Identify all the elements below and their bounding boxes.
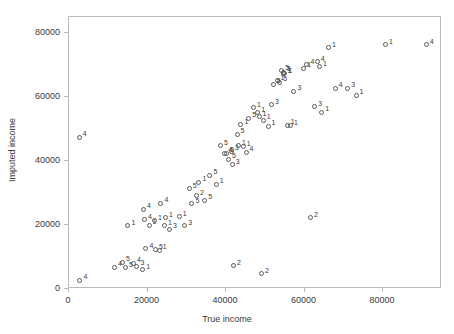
data-point-label: 1 [294, 119, 298, 126]
data-point-label: 1 [291, 118, 295, 125]
data-point-label: 4 [83, 273, 87, 280]
data-point [261, 118, 266, 123]
data-point [424, 42, 429, 47]
data-point [241, 144, 246, 149]
data-point-label: 4 [228, 146, 232, 153]
data-point-label: 5 [252, 111, 256, 118]
data-point-label: 1 [267, 113, 271, 120]
plot-area: 4445514314441151411313552155154553325111… [68, 16, 441, 288]
y-axis-tick [64, 160, 68, 161]
data-point [157, 248, 162, 253]
data-point [141, 207, 146, 212]
y-axis-tick-label: 80000 [14, 28, 60, 37]
data-point [153, 247, 158, 252]
data-point-label: 5 [129, 261, 133, 268]
data-point-label: 1 [325, 105, 329, 112]
x-axis-tick-label: 0 [38, 296, 98, 305]
data-point [158, 201, 163, 206]
data-point [383, 42, 388, 47]
data-point-label: 5 [193, 182, 197, 189]
data-point [134, 264, 139, 269]
y-axis-tick-label: 40000 [14, 156, 60, 165]
data-point [147, 223, 152, 228]
data-point [271, 82, 276, 87]
data-point-label: 4 [147, 202, 151, 209]
data-point [202, 198, 207, 203]
data-point [354, 93, 359, 98]
x-axis-tick [382, 288, 383, 292]
data-point [333, 86, 338, 91]
data-point [226, 157, 231, 162]
data-point [291, 89, 296, 94]
data-point-label: 4 [149, 242, 153, 249]
x-axis-title: True income [0, 314, 454, 324]
data-point [131, 261, 136, 266]
data-point-label: 1 [288, 67, 292, 74]
data-point [120, 260, 125, 265]
data-point [259, 271, 264, 276]
data-point-label: 5 [287, 65, 291, 72]
data-point-label: 1 [360, 88, 364, 95]
data-point-label: 4 [430, 38, 434, 45]
data-point-label: 1 [332, 41, 336, 48]
y-axis-tick-label: 0 [14, 284, 60, 293]
data-point [77, 135, 82, 140]
data-point-label: 5 [195, 197, 199, 204]
data-point-label: 4 [83, 130, 87, 137]
x-axis-tick [68, 288, 69, 292]
data-point [319, 110, 324, 115]
data-point-label: 3 [140, 259, 144, 266]
y-axis-tick [64, 96, 68, 97]
data-point [275, 78, 280, 83]
data-point [281, 70, 286, 75]
data-point-label: 3 [318, 100, 322, 107]
data-point [196, 180, 201, 185]
x-axis-tick-label: 60000 [274, 296, 334, 305]
data-point-label: 1 [307, 61, 311, 68]
data-point [304, 62, 309, 67]
data-point-label: 5 [126, 255, 130, 262]
data-point [308, 215, 313, 220]
data-point [123, 265, 128, 270]
data-point-label: 1 [220, 177, 224, 184]
data-point-label: 1 [272, 119, 276, 126]
data-point [246, 116, 251, 121]
data-point-label: 1 [247, 140, 251, 147]
y-axis-tick [64, 32, 68, 33]
data-point-label: 1 [263, 110, 267, 117]
data-point-label: 5 [241, 127, 245, 134]
data-point-label: 5 [224, 139, 228, 146]
data-point [112, 265, 117, 270]
x-axis-tick-label: 20000 [117, 296, 177, 305]
data-point [189, 201, 194, 206]
x-axis-tick-label: 80000 [352, 296, 412, 305]
data-point-layer: 4445514314441151411313552155154553325111… [69, 17, 440, 287]
data-point-label: 1 [168, 219, 172, 226]
data-point-label: 1 [163, 243, 167, 250]
data-point-label: 3 [275, 98, 279, 105]
data-point [77, 278, 82, 283]
data-point-label: 5 [159, 243, 163, 250]
data-point-label: 5 [232, 152, 236, 159]
data-point [236, 143, 241, 148]
data-point [235, 132, 240, 137]
data-point-label: 3 [173, 222, 177, 229]
scatter-plot-figure: 4445514314441151411313552155154553325111… [0, 0, 454, 334]
data-point-label: 1 [281, 74, 285, 81]
data-point [214, 182, 219, 187]
data-point-label: 1 [323, 60, 327, 67]
data-point-label: 1 [169, 211, 173, 218]
data-point-label: 4 [164, 196, 168, 203]
x-axis-tick [304, 288, 305, 292]
data-point [285, 123, 290, 128]
data-point-label: 1 [131, 219, 135, 226]
data-point-label: 3 [351, 81, 355, 88]
data-point-label: 5 [213, 168, 217, 175]
data-point [288, 123, 293, 128]
data-point [222, 151, 227, 156]
data-point [177, 214, 182, 219]
data-point-label: 2 [200, 189, 204, 196]
data-point [231, 263, 236, 268]
data-point [251, 105, 256, 110]
data-point-label: 1 [158, 214, 162, 221]
